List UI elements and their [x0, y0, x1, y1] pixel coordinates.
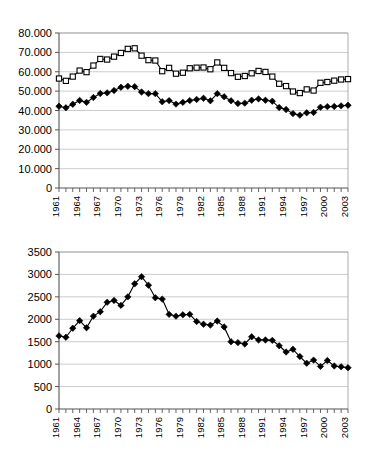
- x-tick-label: 1964: [71, 417, 82, 438]
- data-point-filled-diamond: [125, 83, 131, 89]
- data-point-open-square: [91, 63, 96, 68]
- y-tick-label: 0: [46, 403, 52, 415]
- x-tick-label: 2000: [318, 417, 329, 438]
- chart-bottom-panel: 0500100015002000250030003500196119641967…: [0, 232, 374, 463]
- data-point-filled-diamond: [166, 97, 172, 103]
- data-point-open-square: [132, 46, 137, 51]
- data-point-open-square: [77, 68, 82, 73]
- data-point-open-square: [111, 54, 116, 59]
- data-point-open-square: [160, 69, 165, 74]
- data-point-open-square: [297, 90, 302, 95]
- data-point-open-square: [318, 80, 323, 85]
- data-point-open-square: [228, 71, 233, 76]
- data-point-open-square: [118, 50, 123, 55]
- x-tick-label: 1985: [215, 196, 226, 217]
- data-point-filled-diamond: [324, 103, 330, 109]
- x-tick-label: 1994: [277, 417, 288, 438]
- data-point-filled-diamond: [118, 84, 124, 90]
- data-point-filled-diamond: [104, 90, 110, 96]
- x-tick-label: 1976: [153, 196, 164, 217]
- data-point-filled-diamond: [235, 339, 241, 345]
- data-point-open-square: [263, 69, 268, 74]
- data-point-filled-diamond: [76, 97, 82, 103]
- x-tick-label: 1982: [195, 196, 206, 217]
- data-point-open-square: [222, 65, 227, 70]
- x-tick-label: 1967: [91, 196, 102, 217]
- data-point-filled-diamond: [200, 95, 206, 101]
- x-tick-label: 1997: [298, 196, 309, 217]
- y-tick-label: 0: [46, 182, 52, 194]
- data-point-filled-diamond: [200, 321, 206, 327]
- x-tick-label: 1970: [112, 417, 123, 438]
- data-point-filled-diamond: [345, 102, 351, 108]
- x-tick-label: 1973: [133, 417, 144, 438]
- data-point-open-square: [283, 83, 288, 88]
- x-tick-label: 1991: [256, 417, 267, 438]
- x-tick-label: 1985: [215, 417, 226, 438]
- x-tick-label: 1961: [50, 417, 61, 438]
- data-point-open-square: [98, 56, 103, 61]
- y-tick-label: 3000: [28, 268, 52, 280]
- data-point-open-square: [194, 65, 199, 70]
- data-point-filled-diamond: [235, 100, 241, 106]
- data-point-filled-diamond: [221, 94, 227, 100]
- data-point-filled-diamond: [283, 106, 289, 112]
- data-point-open-square: [84, 70, 89, 75]
- y-tick-label: 1000: [28, 358, 52, 370]
- data-point-open-square: [215, 60, 220, 65]
- y-tick-label: 2000: [28, 313, 52, 325]
- data-point-open-square: [256, 68, 261, 73]
- chart-bottom-svg: 0500100015002000250030003500196119641967…: [0, 232, 374, 463]
- data-point-filled-diamond: [228, 338, 234, 344]
- data-point-filled-diamond: [331, 103, 337, 109]
- data-point-filled-diamond: [63, 105, 69, 111]
- data-point-filled-diamond: [255, 337, 261, 343]
- data-point-open-square: [311, 88, 316, 93]
- data-point-open-square: [290, 89, 295, 94]
- data-point-open-square: [139, 53, 144, 58]
- x-tick-label: 1979: [174, 417, 185, 438]
- y-tick-label: 40.000: [18, 105, 52, 117]
- data-point-open-square: [339, 77, 344, 82]
- data-point-filled-diamond: [338, 364, 344, 370]
- y-tick-label: 70.000: [18, 46, 52, 58]
- data-point-filled-diamond: [262, 97, 268, 103]
- y-tick-label: 30.000: [18, 124, 52, 136]
- x-tick-label: 1991: [256, 196, 267, 217]
- data-point-filled-diamond: [56, 333, 62, 339]
- x-tick-label: 1997: [298, 417, 309, 438]
- y-tick-label: 80.000: [18, 27, 52, 39]
- data-point-filled-diamond: [255, 96, 261, 102]
- data-point-open-square: [249, 71, 254, 76]
- data-point-filled-diamond: [180, 99, 186, 105]
- data-point-open-square: [242, 73, 247, 78]
- data-point-filled-diamond: [248, 97, 254, 103]
- data-point-filled-diamond: [187, 97, 193, 103]
- data-point-filled-diamond: [173, 313, 179, 319]
- data-point-filled-diamond: [90, 313, 96, 319]
- data-point-open-square: [325, 79, 330, 84]
- x-tick-label: 2000: [318, 196, 329, 217]
- chart-top-panel: 010.00020.00030.00040.00050.00060.00070.…: [0, 0, 374, 232]
- data-point-open-square: [167, 65, 172, 70]
- data-point-open-square: [208, 67, 213, 72]
- y-tick-label: 3500: [28, 246, 52, 258]
- x-tick-label: 1961: [50, 196, 61, 217]
- y-tick-label: 1500: [28, 336, 52, 348]
- data-point-filled-diamond: [70, 101, 76, 107]
- data-point-filled-diamond: [345, 365, 351, 371]
- data-point-filled-diamond: [297, 112, 303, 118]
- data-point-filled-diamond: [56, 103, 62, 109]
- x-tick-label: 1964: [71, 196, 82, 217]
- data-point-filled-diamond: [290, 110, 296, 116]
- data-point-filled-diamond: [180, 312, 186, 318]
- data-point-filled-diamond: [173, 101, 179, 107]
- data-point-open-square: [70, 74, 75, 79]
- data-point-open-square: [345, 77, 350, 82]
- data-point-filled-diamond: [193, 96, 199, 102]
- data-point-open-square: [187, 66, 192, 71]
- data-point-filled-diamond: [111, 87, 117, 93]
- data-point-open-square: [63, 78, 68, 83]
- x-tick-label: 2003: [339, 196, 350, 217]
- y-tick-label: 20.000: [18, 143, 52, 155]
